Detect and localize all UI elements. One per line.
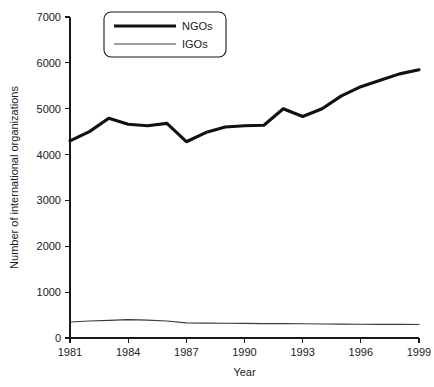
chart-legend: NGOs IGOs bbox=[104, 12, 226, 57]
series-line-igos bbox=[70, 320, 419, 325]
x-tick-label: 1984 bbox=[116, 346, 140, 358]
x-tick-label: 1981 bbox=[58, 346, 82, 358]
legend-box bbox=[104, 12, 226, 57]
y-tick-label: 4000 bbox=[37, 149, 61, 161]
x-axis-title: Year bbox=[233, 366, 256, 378]
line-chart: 01000200030004000500060007000 1981198419… bbox=[0, 0, 434, 387]
y-tick-label: 7000 bbox=[37, 11, 61, 23]
x-axis-ticks: 1981198419871990199319961999 bbox=[58, 338, 431, 358]
legend-label-ngos: NGOs bbox=[182, 20, 213, 32]
y-axis-ticks: 01000200030004000500060007000 bbox=[37, 11, 70, 344]
y-tick-label: 3000 bbox=[37, 194, 61, 206]
y-tick-label: 6000 bbox=[37, 57, 61, 69]
y-tick-label: 0 bbox=[55, 332, 61, 344]
x-tick-label: 1999 bbox=[407, 346, 431, 358]
y-axis-title: Number of international organizations bbox=[8, 86, 20, 269]
x-tick-label: 1990 bbox=[232, 346, 256, 358]
series-line-ngos bbox=[70, 70, 419, 142]
x-tick-label: 1993 bbox=[290, 346, 314, 358]
y-tick-label: 2000 bbox=[37, 240, 61, 252]
x-tick-label: 1996 bbox=[349, 346, 373, 358]
chart-container: 01000200030004000500060007000 1981198419… bbox=[0, 0, 434, 387]
y-tick-label: 1000 bbox=[37, 286, 61, 298]
y-tick-label: 5000 bbox=[37, 103, 61, 115]
legend-label-igos: IGOs bbox=[182, 38, 208, 50]
x-tick-label: 1987 bbox=[174, 346, 198, 358]
